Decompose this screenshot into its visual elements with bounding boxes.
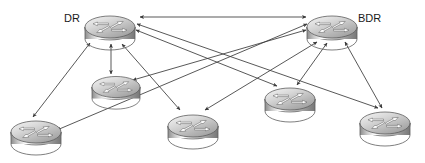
cisco-router-icon [11, 121, 61, 155]
cisco-router-icon [360, 112, 410, 146]
router-layer [11, 16, 410, 155]
router-label-dr: DR [64, 12, 80, 24]
router-node-dr[interactable] [85, 16, 135, 50]
cisco-router-icon [265, 88, 315, 122]
router-node-r4[interactable] [11, 121, 61, 155]
network-topology-diagram: DR BDR [0, 0, 425, 163]
router-node-r5[interactable] [168, 115, 218, 149]
router-node-r6[interactable] [265, 88, 315, 122]
router-label-bdr: BDR [358, 12, 381, 24]
router-node-r7[interactable] [360, 112, 410, 146]
link-dr-r4 [33, 43, 90, 117]
link-bdr-r3 [133, 30, 306, 80]
link-dr-r6 [136, 30, 277, 86]
cisco-router-icon [92, 76, 140, 109]
diagram-canvas: DR BDR [0, 0, 425, 163]
cisco-router-icon [307, 16, 357, 50]
cisco-router-icon [85, 16, 135, 50]
link-dr-r5 [122, 44, 180, 110]
router-node-bdr[interactable] [307, 16, 357, 50]
router-node-r3[interactable] [92, 76, 140, 109]
cisco-router-icon [168, 115, 218, 149]
